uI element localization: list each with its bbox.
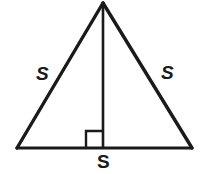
label-base-side: S [97, 152, 110, 171]
label-right-side: S [161, 63, 174, 82]
triangle-diagram-svg [0, 0, 201, 174]
triangle-right-side-line [103, 3, 192, 148]
right-angle-marker-icon [86, 131, 103, 148]
triangle-left-side-line [17, 3, 103, 148]
label-left-side: S [36, 64, 49, 83]
geometry-figure: S S S [0, 0, 201, 174]
